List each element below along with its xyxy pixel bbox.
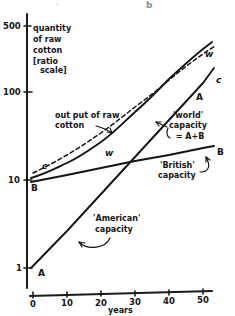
annotation-world-line-1: 'world': [173, 111, 203, 120]
y-tick-label-1: 1: [16, 263, 22, 273]
series-letter-american-top: A: [196, 92, 203, 102]
y-tick-label-500: 500: [3, 21, 21, 31]
series-letter-world-mid: w: [105, 148, 114, 158]
x-axis-line: [30, 291, 212, 296]
annotation-british-line-1: 'British': [160, 161, 195, 170]
series-letter-output-left: c: [42, 161, 48, 171]
y-axis-title-line-4: [ratio: [33, 57, 59, 66]
y-tick-label-100: 100: [3, 87, 21, 97]
series-letter-world-top: w: [205, 49, 214, 59]
series-letter-british-right: B: [217, 147, 224, 157]
x-tick-label-10: 10: [61, 298, 73, 308]
annotation-world-line-2: capacity: [169, 121, 208, 130]
series-line-world-capacity: [31, 42, 212, 178]
y-tick-label-10: 10: [8, 175, 20, 185]
y-axis-title-line-3: cotton: [33, 46, 62, 55]
annotation-american-line-1: 'American': [93, 214, 140, 223]
x-tick-label-0: 0: [30, 299, 36, 309]
top-artifact-left-icon: ·: [56, 1, 58, 9]
y-axis-title-line-1: quantity: [33, 24, 72, 33]
chart-figure: · b 500 100 10 1 0 10 20 30 40 50 years …: [0, 0, 235, 316]
y-axis-title-line-5: scale]: [40, 66, 67, 75]
x-tick-label-20: 20: [95, 298, 107, 308]
series-letter-british-left: B: [31, 183, 38, 193]
x-tick-label-50: 50: [197, 295, 209, 305]
annotation-output-line-2: cotton: [55, 121, 84, 130]
annotation-british-leader-line: [200, 157, 209, 172]
x-tick-label-40: 40: [163, 296, 175, 306]
series-letter-output-top: c: [216, 75, 222, 85]
top-artifact-right-icon: b: [146, 0, 153, 10]
annotation-british-line-2: capacity: [158, 171, 197, 180]
y-axis-title-line-2: of raw: [33, 35, 62, 44]
series-letter-american-bottom: A: [38, 268, 45, 278]
annotation-world-line-3: = A+B: [176, 132, 204, 141]
annotation-output-line-1: out put of raw: [55, 111, 120, 120]
x-axis-title: years: [108, 306, 133, 315]
annotation-american-line-2: capacity: [95, 225, 134, 234]
ratio-scale-line-chart: · b 500 100 10 1 0 10 20 30 40 50 years …: [0, 0, 235, 316]
